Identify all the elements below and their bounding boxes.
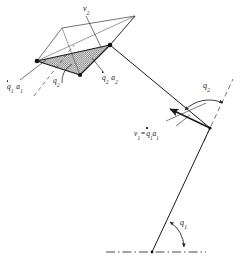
link-2 [110,45,210,128]
label-q2-elbow-angle: q2 [203,82,210,92]
leader-line-q1dot-a1 [20,60,46,80]
leader-line-v2 [86,16,101,47]
vertex-dot-bottom [78,73,82,77]
velocity-triangle-shaded [37,45,110,75]
angle-arc-q2-elbow [185,100,223,110]
label-q1-base-angle: q1 [180,219,187,229]
joint-dot-elbow [208,126,211,129]
label-v1-equation: v1=q1a1 [134,130,159,140]
label-v2: v2 [83,5,89,15]
label-q2dot-a2: q2a2 [102,74,118,84]
label-q1dot-a1: q1a1 [7,83,23,93]
figure-root: v2 q1a1 q2 q2a2 q2 v1=q1a1 q1 [0,0,251,265]
parallelogram-edge-right [110,16,135,45]
leader-line-v1 [176,115,190,126]
manipulator-diagram [0,0,251,265]
link-1 [152,128,210,252]
joint-dot-base [151,251,154,254]
vertex-dot-left [35,59,40,64]
label-q2-wrist-angle: q2 [53,77,59,87]
